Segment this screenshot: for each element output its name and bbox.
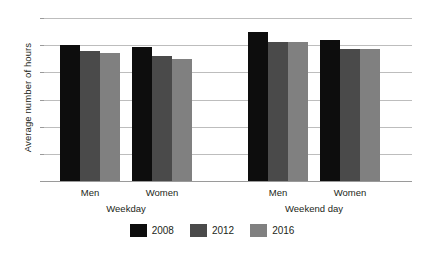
- bar-2012-0: [80, 51, 100, 181]
- gridline-0: [44, 181, 412, 182]
- legend-swatch-icon-2012: [190, 224, 207, 237]
- bar-2012-3: [340, 49, 360, 181]
- bar-2008-3: [320, 40, 340, 181]
- legend-item-2008[interactable]: 2008: [130, 224, 174, 237]
- gridline-5: [44, 45, 412, 46]
- bar-2016-0: [100, 53, 120, 181]
- category-label-1: Women: [122, 187, 202, 198]
- legend-item-2012[interactable]: 2012: [190, 224, 234, 237]
- tick-mark-1: [40, 154, 44, 155]
- gridline-6: [44, 18, 412, 19]
- tick-mark-3: [40, 100, 44, 101]
- tick-mark-6: [40, 18, 44, 19]
- legend-swatch-icon-2016: [250, 224, 267, 237]
- y-axis-title: Average number of hours: [22, 23, 33, 173]
- chart-legend: 200820122016: [0, 224, 424, 237]
- tick-mark-4: [40, 72, 44, 73]
- bar-2016-1: [172, 59, 192, 181]
- tick-mark-5: [40, 45, 44, 46]
- bar-2008-2: [248, 32, 268, 181]
- plot-area: 0123456: [44, 18, 412, 181]
- legend-label-2012: 2012: [212, 226, 234, 236]
- section-label-0: Weekday: [66, 203, 186, 214]
- tick-mark-2: [40, 127, 44, 128]
- bar-2016-3: [360, 49, 380, 181]
- legend-swatch-icon-2008: [130, 224, 147, 237]
- bar-2012-2: [268, 42, 288, 181]
- bar-2008-0: [60, 45, 80, 181]
- legend-label-2008: 2008: [152, 226, 174, 236]
- category-label-0: Men: [50, 187, 130, 198]
- section-label-1: Weekend day: [254, 203, 374, 214]
- category-label-3: Women: [310, 187, 390, 198]
- bar-2012-1: [152, 56, 172, 181]
- bar-2016-2: [288, 42, 308, 181]
- bar-2008-1: [132, 47, 152, 181]
- legend-item-2016[interactable]: 2016: [250, 224, 294, 237]
- bar-chart: Average number of hours 0123456 MenWomen…: [0, 0, 424, 254]
- tick-mark-0: [40, 181, 44, 182]
- category-label-2: Men: [238, 187, 318, 198]
- legend-label-2016: 2016: [272, 226, 294, 236]
